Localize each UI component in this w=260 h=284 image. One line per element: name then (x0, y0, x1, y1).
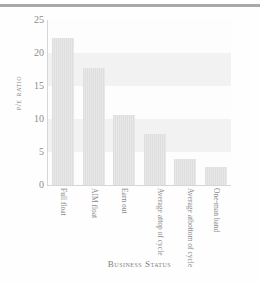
y-tick-label: 5 (4, 147, 44, 157)
bar-series (48, 20, 231, 185)
bar (113, 115, 135, 185)
x-category-slot: Earn out (109, 188, 139, 254)
plot-area (48, 20, 231, 185)
x-category-slot: One-man band (201, 188, 231, 254)
y-axis-title: P/E Ratio (13, 58, 23, 128)
x-category-label-line: Earn out (120, 188, 129, 214)
x-category-label: AIM float (90, 188, 99, 218)
x-axis-title: Business Status (48, 259, 231, 269)
bar (144, 134, 166, 185)
x-category-labels: Full floatAIM floatEarn outAverage attop… (48, 188, 231, 254)
x-axis-baseline (48, 185, 231, 186)
x-category-label-line: Average at (155, 188, 164, 220)
y-tick-label: 15 (4, 81, 44, 91)
y-tick-labels: 0510152025 (0, 0, 44, 284)
y-axis-line (47, 20, 48, 186)
x-category-label: One-man band (212, 188, 221, 232)
x-category-slot: Average attop of cycle (140, 188, 170, 254)
bar (52, 38, 74, 185)
x-category-label: Average atbottom of cycle (185, 188, 194, 267)
bar (83, 68, 105, 185)
x-category-label-line: top of cycle (155, 220, 164, 255)
x-category-label: Average attop of cycle (155, 188, 164, 256)
bar-slot (109, 20, 139, 185)
y-tick-label: 20 (4, 48, 44, 58)
bar (174, 159, 196, 185)
x-category-label-line: Full float (59, 188, 68, 216)
y-tick-label: 25 (4, 15, 44, 25)
x-category-label: Full float (59, 188, 68, 216)
y-tick-label: 10 (4, 114, 44, 124)
x-category-label: Earn out (120, 188, 129, 214)
x-category-slot: AIM float (79, 188, 109, 254)
x-category-label-line: Average at (186, 188, 195, 220)
bar-slot (170, 20, 200, 185)
bar-slot (79, 20, 109, 185)
chart-figure: 0510152025 P/E Ratio Full floatAIM float… (0, 0, 260, 284)
bar-slot (48, 20, 78, 185)
bar-slot (201, 20, 231, 185)
x-category-slot: Average atbottom of cycle (170, 188, 200, 254)
x-category-label-line: AIM float (90, 188, 99, 218)
x-category-label-line: One-man band (212, 188, 221, 232)
x-category-slot: Full float (48, 188, 78, 254)
y-tick-label: 0 (4, 180, 44, 190)
bar-slot (140, 20, 170, 185)
bar (205, 167, 227, 185)
